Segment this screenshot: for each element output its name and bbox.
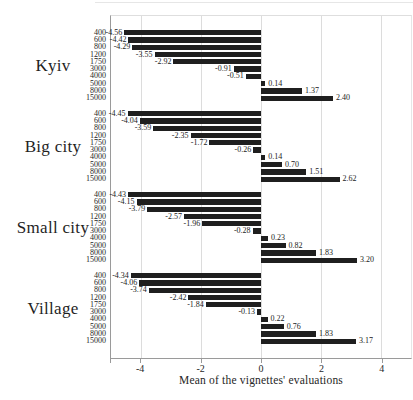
bar [261,81,265,86]
bar [261,317,268,322]
bar-group-big-city: Big city400-4.45600-4.04800-3.591200-2.3… [111,110,411,183]
bar-row: 400-4.56 [111,29,411,36]
bar [261,236,268,241]
bar [261,88,302,93]
bar-row: 3000-0.26 [111,146,411,153]
bar-row: 50000.70 [111,161,411,168]
bar-row: 150002.40 [111,95,411,102]
bar-group-small-city: Small city400-4.43600-4.15800-3.791200-2… [111,191,411,264]
bar-row: 400-4.34 [111,272,411,279]
chart-figure: Kyiv400-4.56600-4.42800-4.291200-3.55175… [0,0,413,400]
bar-row: 150002.62 [111,176,411,183]
bar-row: 4000-0.51 [111,73,411,80]
bar [261,324,284,329]
bar-row: 1200-2.35 [111,132,411,139]
bar [128,37,261,42]
bar-group-village: Village400-4.34600-4.06800-3.741200-2.42… [111,272,411,345]
bar [153,126,261,131]
bar-row: 1750-1.96 [111,220,411,227]
bar [257,309,261,314]
bar-row: 50000.14 [111,80,411,87]
bar-row: 600-4.42 [111,36,411,43]
bar [261,243,286,248]
bar-row: 150003.20 [111,257,411,264]
x-axis-tick-label: 0 [246,363,276,374]
bar-row: 80001.37 [111,87,411,94]
bar-row: 1200-2.42 [111,294,411,301]
bar-value-label: 3.17 [359,337,373,345]
x-axis-tick-label: -2 [186,363,216,374]
bar-row: 600-4.04 [111,117,411,124]
bar-row: 3000-0.28 [111,227,411,234]
bar-row: 3000-0.13 [111,308,411,315]
bar-row: 400-4.43 [111,191,411,198]
bar-value-label: 2.40 [336,94,350,102]
bar [261,155,265,160]
bar [140,118,261,123]
bar [261,177,340,182]
category-label: 15000 [86,256,106,264]
bar [128,192,261,197]
bar [124,30,261,35]
bar-row: 40000.23 [111,235,411,242]
bar-row: 800-3.74 [111,287,411,294]
bar-row: 600-4.06 [111,279,411,286]
bar-row: 1750-1.84 [111,301,411,308]
bar [128,111,262,116]
bar-value-label: 2.62 [343,175,357,183]
bar-row: 50000.82 [111,242,411,249]
bar-row: 50000.76 [111,323,411,330]
x-axis-tick [110,359,111,363]
category-label: 15000 [86,337,106,345]
bar [261,162,282,167]
bar [139,280,261,285]
bar [261,169,306,174]
bar-row: 40000.22 [111,316,411,323]
crop-border-line [95,2,413,3]
bar [137,199,262,204]
bar [261,96,333,101]
category-label: 15000 [86,175,106,183]
plot-area: Kyiv400-4.56600-4.42800-4.291200-3.55175… [110,15,412,359]
bar-row: 150003.17 [111,338,411,345]
bar [131,273,261,278]
bar-row: 400-4.45 [111,110,411,117]
bar-row: 3000-0.91 [111,65,411,72]
bar [261,339,356,344]
bar-row: 80001.51 [111,168,411,175]
bar-row: 1750-2.92 [111,58,411,65]
bar [261,250,316,255]
bar-row: 800-3.59 [111,125,411,132]
bar-value-label: 3.20 [360,256,374,264]
bar [149,288,261,293]
category-label: 15000 [86,94,106,102]
bar-row: 800-3.79 [111,206,411,213]
bar-row: 600-4.15 [111,198,411,205]
bar [261,258,357,263]
x-axis-tick-label: 4 [367,363,397,374]
bar-row: 1200-2.57 [111,213,411,220]
bar [202,221,261,226]
x-axis-title: Mean of the vignettes' evaluations [110,374,412,386]
bar [253,228,261,233]
bar-groups: Kyiv400-4.56600-4.42800-4.291200-3.55175… [111,16,411,358]
bar [253,147,261,152]
bar-group-kyiv: Kyiv400-4.56600-4.42800-4.291200-3.55175… [111,29,411,102]
x-axis-tick-label: 2 [306,363,336,374]
bar [261,331,316,336]
x-axis-tick-label: -4 [125,363,155,374]
bar-row: 1750-1.72 [111,139,411,146]
bar [246,74,261,79]
bar-row: 800-4.29 [111,44,411,51]
bar-row: 40000.14 [111,154,411,161]
